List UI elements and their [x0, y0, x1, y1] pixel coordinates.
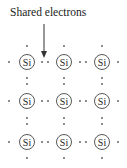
electron-dot [26, 117, 28, 119]
electron-dot [8, 100, 10, 102]
electron-dot [79, 61, 81, 63]
si-atom: Si [57, 94, 72, 109]
atom-label: Si [98, 137, 107, 148]
electron-dot [63, 45, 65, 47]
atom-label: Si [23, 137, 32, 148]
atom-label: Si [98, 57, 107, 68]
electron-dot [117, 61, 119, 63]
silicon-lattice-diagram: Shared electrons SiSiSiSiSiSiSiSiSi [0, 0, 127, 168]
electron-dot [85, 61, 87, 63]
si-atom: Si [20, 135, 35, 150]
electron-dot [26, 77, 28, 79]
electron-dot [63, 157, 65, 159]
si-atom: Si [57, 55, 72, 70]
electron-dot [8, 141, 10, 143]
si-atom: Si [57, 135, 72, 150]
si-atom: Si [20, 94, 35, 109]
electron-dot [85, 100, 87, 102]
electron-dot [41, 100, 43, 102]
electron-dot [101, 45, 103, 47]
electron-dot [47, 100, 49, 102]
electron-dot [63, 123, 65, 125]
si-atom: Si [20, 55, 35, 70]
atom-label: Si [98, 96, 107, 107]
electron-dot [26, 45, 28, 47]
electron-dot [47, 141, 49, 143]
atom-label: Si [60, 57, 69, 68]
si-atom: Si [95, 55, 110, 70]
electron-dot [101, 83, 103, 85]
electron-dot [47, 61, 49, 63]
arrow-icon [41, 24, 47, 58]
electron-dot [63, 77, 65, 79]
atoms-layer: SiSiSiSiSiSiSiSiSi [20, 55, 110, 150]
electron-dot [101, 123, 103, 125]
electron-dot [63, 117, 65, 119]
electron-dot [117, 141, 119, 143]
electron-dot [26, 157, 28, 159]
electron-dot [8, 61, 10, 63]
electron-dot [85, 141, 87, 143]
atom-label: Si [60, 96, 69, 107]
atom-label: Si [23, 57, 32, 68]
electron-dot [117, 100, 119, 102]
electron-dot [26, 83, 28, 85]
si-atom: Si [95, 135, 110, 150]
electron-dot [101, 157, 103, 159]
atom-label: Si [23, 96, 32, 107]
electron-dot [41, 141, 43, 143]
electron-dot [79, 100, 81, 102]
atom-label: Si [60, 137, 69, 148]
electron-dot [101, 117, 103, 119]
electron-dot [63, 83, 65, 85]
lattice-svg: SiSiSiSiSiSiSiSiSi [0, 0, 127, 168]
si-atom: Si [95, 94, 110, 109]
electron-dot [41, 61, 43, 63]
electron-dot [101, 77, 103, 79]
electron-dot [26, 123, 28, 125]
electron-dot [79, 141, 81, 143]
